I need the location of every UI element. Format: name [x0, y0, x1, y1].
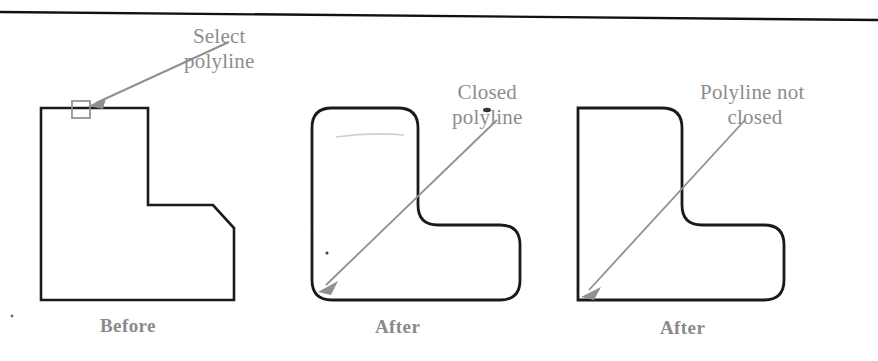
closed-polyline-arrow [318, 120, 497, 295]
scan-speck-lower [325, 251, 328, 254]
annotation-select-polyline: Select polyline [184, 24, 254, 74]
scan-speck-left [11, 315, 14, 318]
fillet-polyline-figure: Select polyline Closed polyline Polyline… [0, 0, 878, 361]
page-rule-line [0, 12, 878, 20]
pickbox-selection-square[interactable] [72, 101, 90, 118]
before-polyline-shape [41, 108, 234, 300]
after-open-polyline-shape [578, 108, 784, 300]
caption-after-open: After [660, 317, 705, 339]
annotation-closed-polyline: Closed polyline [452, 80, 522, 130]
polyline-not-closed-arrow [581, 120, 745, 300]
annotation-polyline-not-closed: Polyline not closed [700, 80, 805, 130]
figure-drawing-canvas [0, 0, 878, 361]
caption-after-closed: After [375, 316, 420, 338]
caption-before: Before [100, 315, 156, 337]
scan-smudge-mark [336, 134, 404, 137]
